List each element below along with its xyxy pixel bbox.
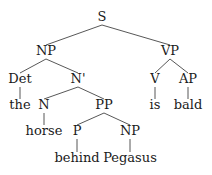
tree-node-np2: NP bbox=[120, 124, 140, 138]
edge-s-vp bbox=[102, 25, 170, 45]
tree-node-behind: behind bbox=[54, 151, 99, 165]
tree-node-v: V bbox=[150, 72, 159, 86]
tree-edges bbox=[0, 0, 212, 175]
tree-node-p: P bbox=[73, 124, 82, 138]
tree-node-np1: NP bbox=[36, 44, 56, 58]
edge-s-np1 bbox=[46, 25, 102, 45]
tree-node-ap: AP bbox=[179, 72, 197, 86]
tree-node-n: N bbox=[38, 98, 49, 112]
tree-node-pp: PP bbox=[95, 98, 113, 112]
tree-node-vp: VP bbox=[161, 44, 179, 58]
tree-node-s: S bbox=[98, 10, 107, 24]
tree-node-det: Det bbox=[8, 72, 31, 86]
tree-node-bald: bald bbox=[174, 98, 203, 112]
tree-node-nbar: N' bbox=[71, 72, 86, 86]
tree-node-horse: horse bbox=[26, 124, 63, 138]
tree-node-pegasus: Pegasus bbox=[103, 151, 157, 165]
tree-node-the: the bbox=[9, 98, 30, 112]
tree-node-is: is bbox=[150, 98, 161, 112]
syntax-tree-diagram: SNPVPDetN'VAPtheNPPisbaldhorsePNPbehindP… bbox=[0, 0, 212, 175]
